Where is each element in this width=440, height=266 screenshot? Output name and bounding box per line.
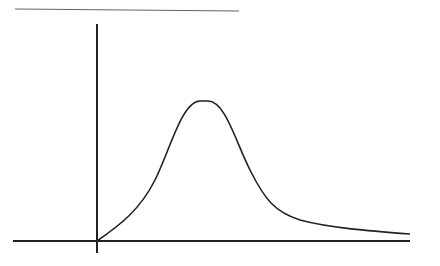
distribution-curve xyxy=(97,101,410,241)
top-rule-line xyxy=(15,9,239,11)
curve-diagram xyxy=(0,0,440,266)
